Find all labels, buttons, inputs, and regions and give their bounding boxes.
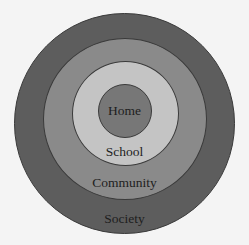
school-label: School: [0, 145, 249, 159]
home-label: Home: [0, 104, 249, 118]
society-label: Society: [0, 212, 249, 226]
community-label: Community: [0, 176, 249, 190]
